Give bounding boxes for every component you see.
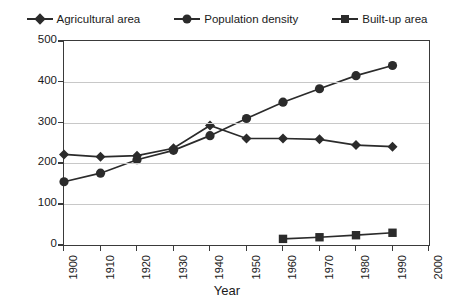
x-tick-mark — [246, 245, 247, 251]
chart-legend: Agricultural areaPopulation densityBuilt… — [0, 8, 454, 30]
diamond-data-point — [96, 152, 106, 162]
x-tick-label: 1900 — [68, 255, 79, 279]
diamond-data-point — [315, 134, 325, 144]
x-tick-mark — [428, 245, 429, 251]
x-tick-label: 1960 — [287, 255, 298, 279]
y-tick-label: 100 — [5, 197, 57, 208]
diamond-data-point — [242, 134, 252, 144]
diamond-data-point — [278, 134, 288, 144]
plot-area — [63, 40, 430, 246]
x-tick-label: 1930 — [178, 255, 189, 279]
x-tick-mark — [100, 245, 101, 251]
legend-item-built-up-area: Built-up area — [332, 13, 427, 25]
x-tick-label: 1940 — [214, 255, 225, 279]
y-tick-mark — [58, 122, 63, 124]
x-tick-label: 1920 — [141, 255, 152, 279]
legend-marker — [341, 15, 349, 23]
series-layer — [64, 41, 429, 245]
legend-label: Built-up area — [362, 13, 427, 25]
legend-label: Population density — [204, 13, 298, 25]
y-axis: 0100200300400500 — [0, 0, 57, 308]
y-tick-label: 0 — [5, 238, 57, 249]
x-tick-mark — [282, 245, 283, 251]
x-tick-mark — [173, 245, 174, 251]
x-tick-label: 2000 — [433, 255, 444, 279]
square-data-point — [388, 229, 396, 237]
series-line — [283, 233, 393, 239]
square-data-point — [315, 233, 323, 241]
diamond-data-point — [351, 140, 361, 150]
legend-item-population-density: Population density — [174, 13, 298, 25]
x-tick-label: 1910 — [105, 255, 116, 279]
x-tick-label: 1980 — [360, 255, 371, 279]
y-tick-mark — [58, 81, 63, 83]
x-tick-mark — [392, 245, 393, 251]
y-tick-mark — [58, 40, 63, 42]
series-population-density — [59, 61, 397, 186]
gridline — [64, 123, 429, 124]
circle-data-point — [351, 71, 360, 80]
circle-data-point — [96, 169, 105, 178]
x-axis-title: Year — [0, 283, 454, 298]
x-tick-mark — [136, 245, 137, 251]
circle-marker-icon — [174, 13, 200, 25]
y-tick-label: 200 — [5, 156, 57, 167]
square-data-point — [279, 235, 287, 243]
square-data-point — [352, 231, 360, 239]
diamond-data-point — [388, 142, 398, 152]
gridline — [64, 204, 429, 205]
x-tick-label: 1950 — [251, 255, 262, 279]
y-tick-label: 500 — [5, 34, 57, 45]
chart-container: Agricultural areaPopulation densityBuilt… — [0, 0, 454, 308]
y-tick-label: 400 — [5, 75, 57, 86]
y-tick-mark — [58, 203, 63, 205]
x-tick-mark — [209, 245, 210, 251]
circle-data-point — [169, 146, 178, 155]
legend-marker — [183, 15, 192, 24]
circle-data-point — [278, 98, 287, 107]
circle-data-point — [315, 84, 324, 93]
x-tick-mark — [63, 245, 64, 251]
y-tick-label: 300 — [5, 116, 57, 127]
y-tick-mark — [58, 162, 63, 164]
circle-data-point — [59, 177, 68, 186]
legend-label: Agricultural area — [57, 13, 141, 25]
x-tick-mark — [319, 245, 320, 251]
series-line — [64, 125, 393, 156]
x-tick-label: 1970 — [324, 255, 335, 279]
x-tick-label: 1990 — [397, 255, 408, 279]
gridline — [64, 163, 429, 164]
gridline — [64, 82, 429, 83]
square-marker-icon — [332, 13, 358, 25]
circle-data-point — [205, 131, 214, 140]
series-built-up-area — [279, 229, 397, 244]
circle-data-point — [388, 61, 397, 70]
x-tick-mark — [355, 245, 356, 251]
diamond-data-point — [59, 149, 69, 159]
